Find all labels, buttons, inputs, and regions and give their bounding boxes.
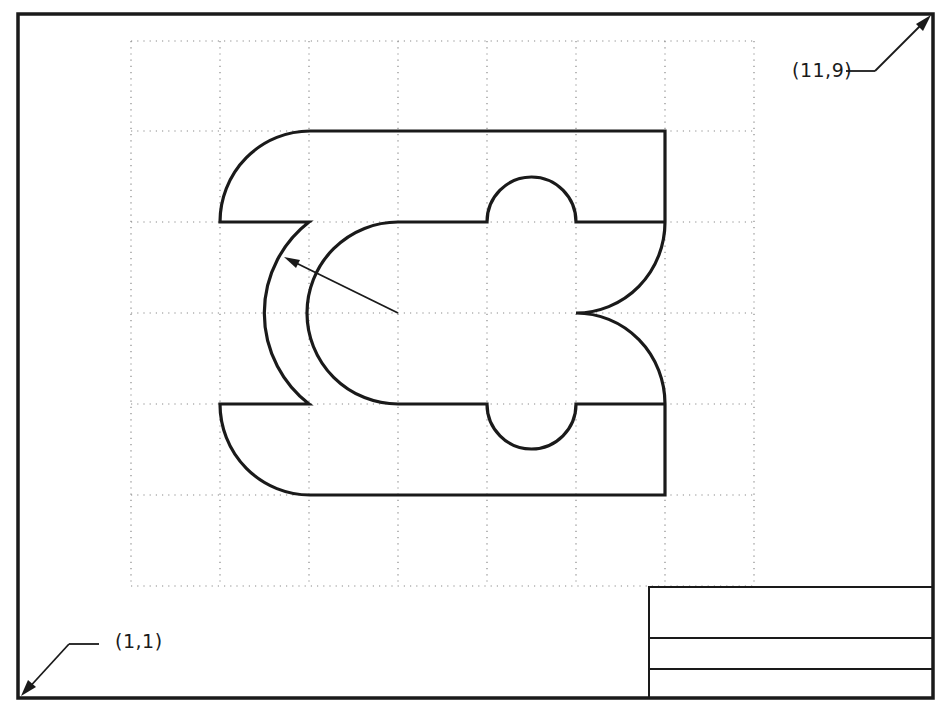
drawing-sheet xyxy=(0,0,948,710)
title-block xyxy=(649,587,933,698)
sheet-border xyxy=(18,14,933,698)
top-right-leader xyxy=(846,15,931,71)
radius-leader xyxy=(284,257,398,313)
bottom-left-coordinate-label: (1,1) xyxy=(115,630,163,652)
top-right-coordinate-label: (11,9) xyxy=(792,59,852,81)
dotted-grid xyxy=(131,41,754,586)
arrowhead-icon xyxy=(284,257,300,268)
bottom-left-leader xyxy=(21,644,99,696)
